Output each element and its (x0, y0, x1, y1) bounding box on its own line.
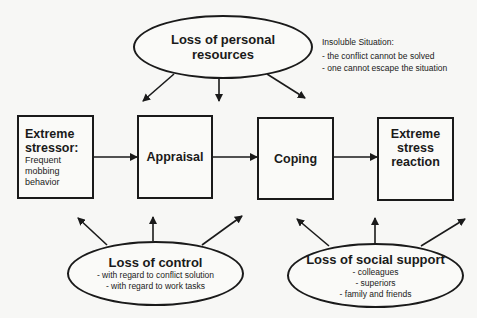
loss-of-control-ellipse: Loss of control - with regard to conflic… (67, 241, 244, 306)
loss-of-personal-resources-label: Loss of personal resources (163, 32, 283, 62)
insoluble-situation-note: Insoluble Situation: - the conflict cann… (322, 36, 447, 74)
loss-of-personal-resources-ellipse: Loss of personal resources (133, 15, 313, 79)
coping-box: Coping (257, 117, 334, 200)
note-title: Insoluble Situation: (322, 36, 447, 48)
note-item: - the conflict cannot be solved (322, 50, 447, 62)
extreme-stress-reaction-title: Extreme stress reaction (386, 127, 446, 169)
note-item: - one cannot escape the situation (322, 62, 447, 74)
extreme-stressor-box: Extreme stressor: Frequent mobbing behav… (17, 115, 94, 199)
appraisal-box: Appraisal (137, 115, 213, 199)
extreme-stress-reaction-box: Extreme stress reaction (377, 117, 454, 201)
coping-title: Coping (259, 152, 332, 166)
loss-of-social-support-item: - superiors (355, 278, 395, 289)
loss-of-social-support-item: - family and friends (340, 289, 412, 300)
loss-of-social-support-ellipse: Loss of social support - colleagues - su… (287, 243, 464, 308)
loss-of-control-item: - with regard to work tasks (106, 281, 205, 292)
loss-of-social-support-item: - colleagues (353, 267, 399, 278)
extreme-stressor-title: Extreme stressor: (25, 127, 89, 155)
loss-of-control-item: - with regard to conflict solution (97, 270, 214, 281)
extreme-stressor-detail: Frequent mobbing behavior (25, 155, 75, 188)
loss-of-social-support-title: Loss of social support (306, 252, 445, 267)
loss-of-control-title: Loss of control (109, 255, 203, 270)
appraisal-title: Appraisal (139, 150, 211, 164)
